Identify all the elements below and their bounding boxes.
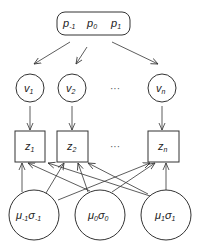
top-node-p: p-1 p0 p1 <box>57 12 130 35</box>
svg-text:v2: v2 <box>66 82 76 95</box>
z-node-n: zn <box>148 131 179 162</box>
ellipsis-v: ··· <box>110 83 120 94</box>
z-node-2: z2 <box>57 131 88 162</box>
z-node-1: z1 <box>15 131 45 162</box>
svg-text:vn: vn <box>156 82 166 95</box>
svg-text:p-1: p-1 <box>62 17 75 30</box>
v-node-n: vn <box>148 74 176 102</box>
mu-sigma-node-minus1: μ-1σ-1 <box>9 190 59 240</box>
svg-text:p0: p0 <box>86 17 97 30</box>
v-node-1: v1 <box>16 74 44 102</box>
mu-sigma-node-0: μ0σ0 <box>75 190 125 240</box>
ellipsis-z: ··· <box>110 141 120 152</box>
svg-text:z2: z2 <box>66 140 77 153</box>
svg-text:z1: z1 <box>24 140 35 153</box>
bayesian-network-diagram: p-1 p0 p1 v1 v2 ··· vn z1 z2 ··· zn <box>0 0 200 249</box>
edges-v-to-z <box>30 106 162 130</box>
mu-sigma-node-1: μ1σ1 <box>141 190 191 240</box>
v-node-2: v2 <box>58 74 86 102</box>
svg-text:v1: v1 <box>24 82 34 95</box>
svg-text:p1: p1 <box>110 17 121 30</box>
edges-p-to-v <box>34 42 158 64</box>
svg-text:zn: zn <box>157 140 168 153</box>
